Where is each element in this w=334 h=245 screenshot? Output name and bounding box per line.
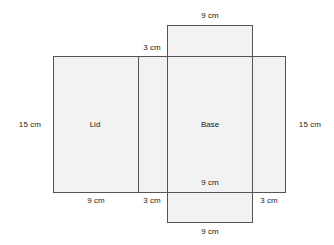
dimension-bottom-9cm: 9 cm — [87, 196, 105, 206]
dimension-base-inner-9cm: 9 cm — [201, 178, 219, 188]
dimension-right-15cm: 15 cm — [299, 120, 321, 130]
divider-leftflap-base — [167, 56, 168, 193]
divider-lid-leftflap — [138, 56, 139, 193]
bottom-flap-panel — [167, 192, 253, 223]
dimension-top-3cm: 3 cm — [143, 43, 161, 53]
dimension-bottom-3cm-right: 3 cm — [260, 196, 278, 206]
dimension-top-9cm: 9 cm — [201, 11, 219, 21]
top-flap-panel — [167, 25, 253, 57]
dimension-bottom-outer-9cm: 9 cm — [201, 227, 219, 237]
lid-label: Lid — [90, 120, 101, 130]
dimension-bottom-3cm-left: 3 cm — [143, 196, 161, 206]
dimension-left-15cm: 15 cm — [19, 120, 41, 130]
base-label: Base — [201, 120, 219, 130]
divider-base-rightflap — [252, 56, 253, 193]
net-diagram-canvas: Lid Base 9 cm 3 cm 15 cm 15 cm 9 cm 9 cm… — [0, 0, 334, 245]
